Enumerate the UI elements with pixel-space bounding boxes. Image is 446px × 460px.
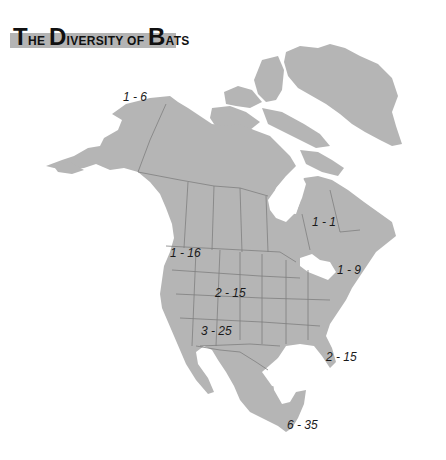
arctic-islands: [254, 56, 284, 102]
region-label-pacific-northwest: 1 - 16: [170, 246, 201, 260]
region-label-hudson-bay-quebec: 1 - 1: [312, 215, 336, 229]
north-america-map: [0, 0, 446, 460]
region-label-southern-mexico: 6 - 35: [287, 418, 318, 432]
arctic-islands: [224, 86, 262, 108]
region-label-central-plains: 2 - 15: [215, 286, 246, 300]
region-label-northeast-us: 1 - 9: [337, 263, 361, 277]
region-label-southwest: 3 - 25: [201, 324, 232, 338]
baffin-island: [300, 150, 344, 176]
region-label-alaska: 1 - 6: [123, 90, 147, 104]
region-label-florida: 2 - 15: [326, 350, 357, 364]
